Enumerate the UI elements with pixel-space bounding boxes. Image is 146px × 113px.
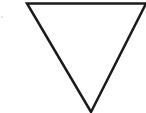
stray-dot: [1, 16, 2, 17]
inverted-triangle-shape: [27, 4, 146, 113]
triangle-diagram: [0, 0, 146, 113]
